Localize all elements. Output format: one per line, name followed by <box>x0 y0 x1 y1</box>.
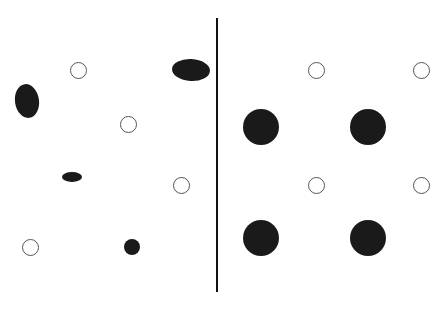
outline-shape <box>308 177 325 194</box>
outline-shape <box>413 62 430 79</box>
figure-canvas <box>0 0 439 315</box>
filled-shape <box>350 109 386 145</box>
filled-shape <box>13 82 41 119</box>
outline-shape <box>120 116 137 133</box>
right-panel-region <box>218 0 439 315</box>
outline-shape <box>173 177 190 194</box>
outline-shape <box>308 62 325 79</box>
filled-shape <box>243 220 279 256</box>
left-panel-region <box>0 0 216 315</box>
outline-shape <box>70 62 87 79</box>
outline-shape <box>413 177 430 194</box>
filled-shape <box>350 220 386 256</box>
outline-shape <box>22 239 39 256</box>
filled-shape <box>243 109 279 145</box>
filled-shape <box>124 239 140 255</box>
vertical-divider-line <box>216 18 218 292</box>
filled-shape <box>62 172 82 182</box>
filled-shape <box>171 58 210 82</box>
